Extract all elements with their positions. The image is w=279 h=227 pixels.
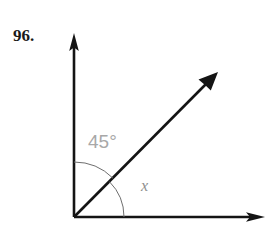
angle-figure-svg: 45° x bbox=[0, 0, 279, 227]
unknown-angle-label: x bbox=[140, 177, 148, 194]
known-angle-label: 45° bbox=[88, 131, 117, 152]
angle-arc-45 bbox=[74, 162, 113, 178]
angle-arc-x bbox=[109, 182, 124, 217]
horizontal-ray bbox=[74, 212, 265, 222]
vertical-ray bbox=[69, 33, 79, 217]
angle-diagram-figure: 96. 45° x bbox=[0, 0, 279, 227]
